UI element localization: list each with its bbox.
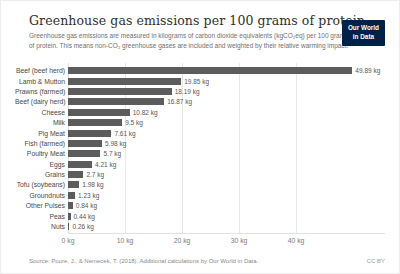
- value-label: 49.89 kg: [355, 67, 380, 75]
- bar-track: 0.84 kg: [68, 202, 385, 209]
- bar-row: Beef (dairy herd)16.87 kg: [15, 97, 385, 107]
- owid-logo-line2: in Data: [348, 33, 379, 42]
- bar-row: Lamb & Mutton19.85 kg: [15, 76, 385, 86]
- bar-track: 18.19 kg: [68, 88, 385, 95]
- value-label: 1.98 kg: [82, 181, 103, 189]
- bar: [68, 171, 83, 178]
- bar-track: 0.26 kg: [68, 223, 385, 230]
- value-label: 18.19 kg: [175, 88, 200, 96]
- value-label: 2.7 kg: [86, 171, 104, 179]
- bar-track: 9.5 kg: [68, 119, 385, 126]
- bar-row: Beef (beef herd)49.89 kg: [15, 66, 385, 76]
- bar-rows: Beef (beef herd)49.89 kgLamb & Mutton19.…: [15, 66, 385, 232]
- bar-row: Tofu (soybeans)1.98 kg: [15, 180, 385, 190]
- category-label: Beef (beef herd): [15, 67, 68, 74]
- x-axis-line: [68, 233, 385, 234]
- bar-track: 10.82 kg: [68, 109, 385, 116]
- bar: [68, 202, 73, 209]
- owid-logo-line1: Our World: [348, 24, 379, 33]
- value-label: 7.61 kg: [114, 130, 135, 138]
- category-label: Other Pulses: [15, 202, 68, 209]
- bar: [68, 119, 122, 126]
- x-axis-tick: 40 kg: [288, 237, 305, 244]
- category-label: Peas: [15, 213, 68, 220]
- bar-track: 49.89 kg: [68, 67, 385, 74]
- owid-logo[interactable]: Our World in Data: [342, 20, 385, 46]
- x-axis: 0 kg10 kg20 kg30 kg40 kg: [15, 235, 385, 247]
- bar: [68, 140, 102, 147]
- bar-row: Grains2.7 kg: [15, 169, 385, 179]
- bar-row: Peas0.44 kg: [15, 211, 385, 221]
- category-label: Tofu (soybeans): [15, 181, 68, 188]
- bar: [68, 109, 130, 116]
- bar: [68, 223, 69, 230]
- bar-row: Pig Meat7.61 kg: [15, 128, 385, 138]
- category-label: Prawns (farmed): [15, 88, 68, 95]
- x-axis-tick: 10 kg: [117, 237, 134, 244]
- bar: [68, 181, 79, 188]
- bar-row: Fish (farmed)5.98 kg: [15, 138, 385, 148]
- bar-track: 1.23 kg: [68, 192, 385, 199]
- value-label: 0.26 kg: [72, 223, 93, 231]
- bar-track: 1.98 kg: [68, 181, 385, 188]
- category-label: Pig Meat: [15, 130, 68, 137]
- bar-chart: Beef (beef herd)49.89 kgLamb & Mutton19.…: [15, 66, 385, 247]
- bar: [68, 67, 352, 74]
- bar-row: Other Pulses0.84 kg: [15, 201, 385, 211]
- bar-track: 5.98 kg: [68, 140, 385, 147]
- category-label: Milk: [15, 119, 68, 126]
- bar-track: 16.87 kg: [68, 98, 385, 105]
- chart-footer: Source: Poore, J., & Nemecek, T. (2018).…: [29, 258, 385, 264]
- bar: [68, 192, 75, 199]
- source-note: Source: Poore, J., & Nemecek, T. (2018).…: [29, 258, 258, 264]
- bar-track: 2.7 kg: [68, 171, 385, 178]
- bar-track: 5.7 kg: [68, 150, 385, 157]
- bar: [68, 150, 100, 157]
- bar: [68, 98, 164, 105]
- bar: [68, 213, 71, 220]
- category-label: Cheese: [15, 109, 68, 116]
- category-label: Eggs: [15, 161, 68, 168]
- value-label: 5.98 kg: [105, 140, 126, 148]
- bar-row: Nuts0.26 kg: [15, 221, 385, 231]
- value-label: 4.21 kg: [95, 161, 116, 169]
- bar-track: 4.21 kg: [68, 161, 385, 168]
- value-label: 9.5 kg: [125, 119, 143, 127]
- value-label: 19.85 kg: [184, 78, 209, 86]
- bar-row: Milk9.5 kg: [15, 117, 385, 127]
- bar: [68, 161, 92, 168]
- bar-row: Cheese10.82 kg: [15, 107, 385, 117]
- category-label: Poultry Meat: [15, 150, 68, 157]
- bar: [68, 130, 111, 137]
- x-axis-tick: 30 kg: [231, 237, 248, 244]
- category-label: Lamb & Mutton: [15, 78, 68, 85]
- bar-track: 7.61 kg: [68, 130, 385, 137]
- value-label: 1.23 kg: [78, 192, 99, 200]
- category-label: Nuts: [15, 223, 68, 230]
- value-label: 16.87 kg: [167, 98, 192, 106]
- bar-row: Groundnuts1.23 kg: [15, 190, 385, 200]
- chart-header: Greenhouse gas emissions per 100 grams o…: [15, 13, 385, 51]
- bar-row: Poultry Meat5.7 kg: [15, 149, 385, 159]
- chart-card: Greenhouse gas emissions per 100 grams o…: [0, 0, 400, 274]
- page-title: Greenhouse gas emissions per 100 grams o…: [29, 13, 385, 28]
- value-label: 10.82 kg: [133, 109, 158, 117]
- category-label: Grains: [15, 171, 68, 178]
- chart-subtitle: Greenhouse gas emissions are measured in…: [29, 31, 351, 51]
- value-label: 0.44 kg: [74, 213, 95, 221]
- bar-row: Prawns (farmed)18.19 kg: [15, 86, 385, 96]
- category-label: Beef (dairy herd): [15, 98, 68, 105]
- bar-track: 0.44 kg: [68, 213, 385, 220]
- x-axis-tick: 0 kg: [62, 237, 75, 244]
- license-badge: CC BY: [367, 258, 385, 264]
- bar-row: Eggs4.21 kg: [15, 159, 385, 169]
- bar: [68, 78, 181, 85]
- bar: [68, 88, 172, 95]
- bar-track: 19.85 kg: [68, 78, 385, 85]
- value-label: 5.7 kg: [103, 150, 121, 158]
- x-axis-tick: 20 kg: [174, 237, 191, 244]
- value-label: 0.84 kg: [76, 202, 97, 210]
- category-label: Fish (farmed): [15, 140, 68, 147]
- category-label: Groundnuts: [15, 192, 68, 199]
